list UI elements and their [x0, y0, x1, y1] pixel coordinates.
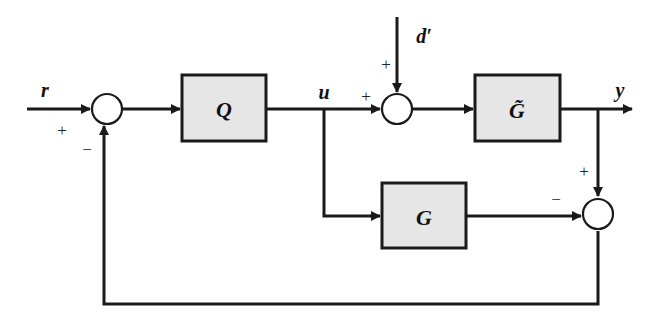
disturbance-signal-label: d′ [416, 25, 432, 47]
sum1-minus-sign: − [82, 140, 92, 159]
output-signal-label: y [614, 79, 625, 102]
summing-junction-1 [92, 94, 122, 124]
control-signal-label: u [318, 81, 329, 103]
block-diagram: Q G̃ G r u d′ y + − + + + − [0, 0, 660, 324]
sum3-plus-sign: + [579, 162, 589, 181]
sum3-minus-sign: − [551, 190, 561, 209]
summing-junction-3 [583, 199, 613, 229]
reference-signal-label: r [41, 79, 49, 101]
plant-label: G̃ [509, 98, 525, 123]
model-label: G [416, 205, 432, 230]
summing-junction-2 [382, 94, 412, 124]
controller-label: Q [216, 97, 232, 122]
sum2-plus-sign-u: + [361, 87, 371, 106]
wire-u-to-model [324, 109, 380, 216]
sum2-plus-sign-d: + [381, 55, 391, 74]
sum1-plus-sign: + [57, 121, 67, 140]
